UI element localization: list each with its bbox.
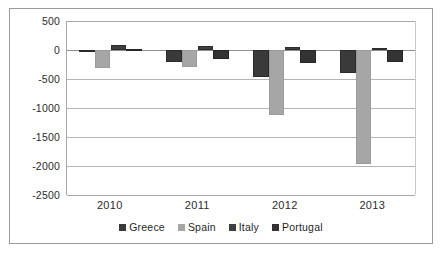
bar-greece-2011 (166, 50, 182, 62)
bar-spain-2012 (269, 50, 285, 115)
bar-greece-2013 (340, 50, 356, 73)
y-axis-tick-label: -2000 (32, 160, 60, 172)
y-axis-tick-label: -2500 (32, 189, 60, 201)
y-axis-tick-label: -1000 (32, 102, 60, 114)
bar-italy-2010 (111, 45, 127, 50)
legend-label: Spain (188, 221, 216, 233)
legend-swatch-icon (272, 224, 279, 231)
bar-group (328, 21, 415, 195)
legend-item-spain[interactable]: Spain (178, 221, 216, 233)
bar-portugal-2012 (300, 50, 316, 63)
legend-label: Greece (129, 221, 165, 233)
legend-item-portugal[interactable]: Portugal (272, 221, 323, 233)
bar-spain-2010 (95, 50, 111, 68)
chart-legend: GreeceSpainItalyPortugal (10, 221, 432, 233)
bar-portugal-2011 (213, 50, 229, 59)
x-axis-tick-label: 2013 (359, 199, 385, 211)
x-axis-tick-label: 2012 (272, 199, 298, 211)
y-axis-tick-label: -500 (38, 73, 60, 85)
gridline (67, 195, 415, 196)
bar-spain-2013 (356, 50, 372, 164)
legend-item-greece[interactable]: Greece (119, 221, 165, 233)
y-axis-tick-label: -1500 (32, 131, 60, 143)
bar-greece-2012 (253, 50, 269, 77)
legend-swatch-icon (229, 224, 236, 231)
y-axis-tick-label: 500 (42, 15, 60, 27)
legend-label: Portugal (282, 221, 323, 233)
chart-frame: 5000-500-1000-1500-2000-2500 20102011201… (9, 8, 433, 244)
x-axis-tick-label: 2010 (97, 199, 123, 211)
legend-item-italy[interactable]: Italy (229, 221, 259, 233)
x-axis-tick-label: 2011 (185, 199, 210, 211)
y-axis-tick-label: 0 (54, 44, 60, 56)
bar-portugal-2013 (387, 50, 403, 62)
legend-label: Italy (239, 221, 259, 233)
bar-italy-2013 (372, 48, 388, 50)
legend-swatch-icon (178, 224, 185, 231)
bar-greece-2010 (79, 50, 95, 52)
x-axis: 2010201120122013 (66, 199, 416, 217)
y-axis: 5000-500-1000-1500-2000-2500 (10, 21, 60, 195)
bar-spain-2011 (182, 50, 198, 67)
bar-group (67, 21, 154, 195)
plot-area (66, 21, 416, 195)
bar-group (154, 21, 241, 195)
bar-italy-2011 (198, 46, 214, 50)
bar-portugal-2010 (126, 49, 142, 51)
legend-swatch-icon (119, 224, 126, 231)
bar-italy-2012 (285, 47, 301, 50)
bar-group (241, 21, 328, 195)
